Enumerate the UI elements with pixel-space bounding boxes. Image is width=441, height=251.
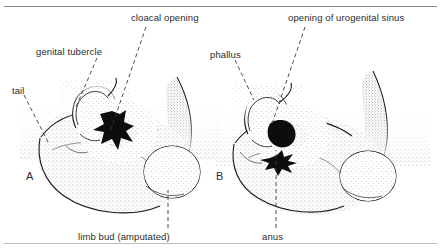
label-cloacal-opening: cloacal opening: [131, 13, 199, 23]
label-genital-tubercle: genital tubercle: [36, 47, 102, 57]
panel-a-drawing: [20, 60, 220, 230]
label-tail: tail: [12, 86, 25, 96]
label-opening-of-urogenital-sinus: opening of urogenital sinus: [288, 13, 404, 23]
label-phallus: phallus: [210, 50, 241, 60]
anatomical-figure: cloacal opening genital tubercle tail li…: [0, 0, 441, 251]
panel-letter-b: B: [216, 171, 223, 182]
label-anus: anus: [262, 232, 283, 242]
panel-letter-a: A: [26, 171, 33, 182]
figure-artwork: [0, 0, 441, 251]
panel-b-drawing: [215, 56, 430, 232]
label-limb-bud-amputated: limb bud (amputated): [78, 232, 170, 242]
